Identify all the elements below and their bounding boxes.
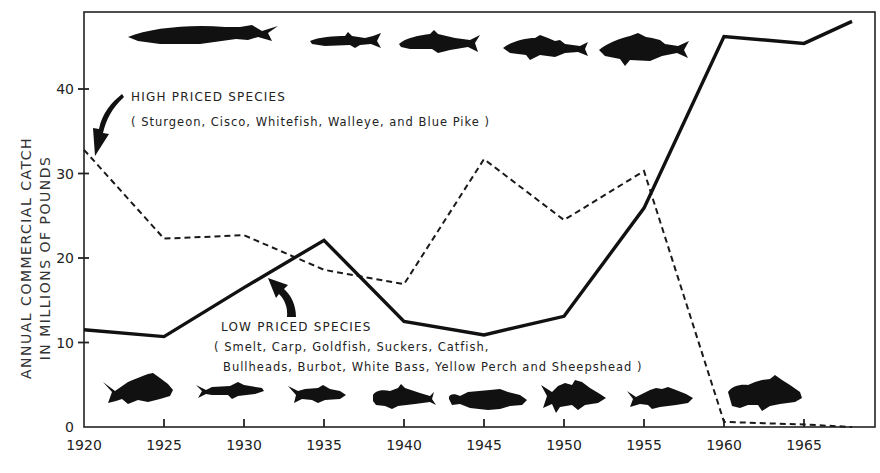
burbot-icon [449,389,527,410]
y-axis-title-line-2: IN MILLIONS OF POUNDS [37,156,53,361]
x-tick-label: 1965 [786,437,822,453]
blue-pike-icon [599,33,689,66]
y-tick-label: 10 [56,335,74,351]
sucker-icon [288,385,346,403]
y-tick-label: 30 [56,166,74,182]
low-priced-series-line [84,21,852,336]
low-priced-members-line-1: ( Smelt, Carp, Goldfish, Suckers, Catfis… [214,340,489,354]
cisco-icon [310,32,381,48]
y-tick-label: 0 [65,419,74,435]
low-priced-members-line-2: Bullheads, Burbot, White Bass, Yellow Pe… [223,360,643,374]
high-priced-members: ( Sturgeon, Cisco, Whitefish, Walleye, a… [131,115,490,129]
sheepshead-icon [728,375,802,411]
x-tick-label: 1935 [306,437,342,453]
carp-icon [103,373,173,404]
low-priced-title: LOW PRICED SPECIES [221,320,372,334]
x-tick-label: 1920 [66,437,102,453]
catch-chart: ANNUAL COMMERCIAL CATCH IN MILLIONS OF P… [0,0,880,473]
y-tick-label: 20 [56,250,74,266]
y-axis-title-line-1: ANNUAL COMMERCIAL CATCH [18,137,34,379]
curved-arrow-icon [93,94,124,156]
y-tick-label: 40 [56,81,74,97]
high-priced-annotation: HIGH PRICED SPECIES ( Sturgeon, Cisco, W… [93,90,490,156]
x-tick-label: 1955 [626,437,662,453]
x-tick-label: 1945 [466,437,502,453]
smelt-icon [196,382,264,399]
x-tick-label: 1940 [386,437,422,453]
x-tick-label: 1925 [146,437,182,453]
y-axis-title: ANNUAL COMMERCIAL CATCH IN MILLIONS OF P… [18,137,53,379]
x-tick-label: 1930 [226,437,262,453]
yellow-perch-icon [627,387,693,409]
curved-arrow-icon [268,278,296,317]
x-axis-ticks: 1920192519301935194019451950195519601965 [66,419,822,453]
high-priced-series-line [84,150,852,427]
catfish-icon [373,384,436,409]
high-priced-title: HIGH PRICED SPECIES [131,90,286,104]
x-tick-label: 1950 [546,437,582,453]
whitefish-icon [399,30,480,53]
sturgeon-icon [128,25,278,44]
low-priced-fish-row [103,373,802,413]
high-priced-fish-row [128,25,689,66]
x-tick-label: 1960 [706,437,742,453]
white-bass-icon [541,380,606,413]
walleye-icon [503,35,588,60]
